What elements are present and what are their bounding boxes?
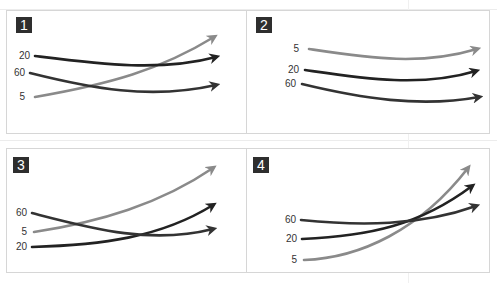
panel-4-curve-5-arrow [304,168,468,260]
panel-1-curve-60-arrow [30,73,216,92]
panel-2-curve-5-arrow [309,49,477,59]
panel-2-curve-60-arrow [302,84,479,102]
panel-1-curve-5-arrow [35,37,214,97]
panel-3-curve-60-arrow [32,213,213,235]
panel-4-curve-60-arrow [301,206,476,223]
panel-2-curve-20-arrow [305,70,476,80]
panel-3-curve-5-arrow [34,168,213,232]
curves-layer [0,0,497,283]
panel-1-curve-20-arrow [35,56,216,65]
